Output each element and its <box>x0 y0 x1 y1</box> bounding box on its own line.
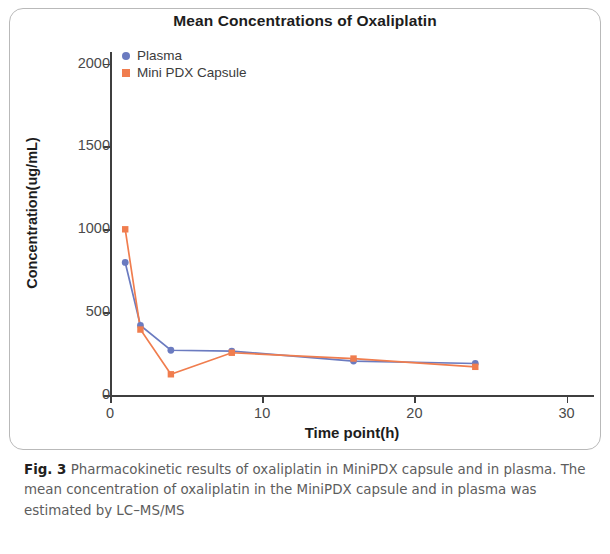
figure-caption-text: Pharmacokinetic results of oxaliplatin i… <box>24 462 586 518</box>
data-point-marker <box>122 259 129 266</box>
data-point-marker <box>122 226 128 232</box>
data-point-marker <box>168 371 174 377</box>
data-series-layer <box>0 0 610 450</box>
data-point-marker <box>229 350 235 356</box>
legend-label: Plasma <box>137 49 182 63</box>
legend-item: Mini PDX Capsule <box>122 65 247 80</box>
legend-square-icon <box>122 69 130 77</box>
data-point-marker <box>167 347 174 354</box>
figure-label: Fig. 3 <box>24 462 66 477</box>
chart-legend: PlasmaMini PDX Capsule <box>122 48 247 82</box>
figure-caption: Fig. 3 Pharmacokinetic results of oxalip… <box>24 460 590 521</box>
legend-circle-icon <box>122 52 130 60</box>
legend-label: Mini PDX Capsule <box>137 66 247 80</box>
legend-item: Plasma <box>122 48 247 63</box>
series-line <box>125 229 475 374</box>
figure-container: Mean Concentrations of Oxaliplatin 05001… <box>0 0 610 554</box>
data-point-marker <box>472 364 478 370</box>
data-point-marker <box>350 355 356 361</box>
plot-area: 0500100015002000 0102030 Concentration(u… <box>0 0 610 450</box>
series-line <box>125 262 475 363</box>
data-point-marker <box>137 326 143 332</box>
